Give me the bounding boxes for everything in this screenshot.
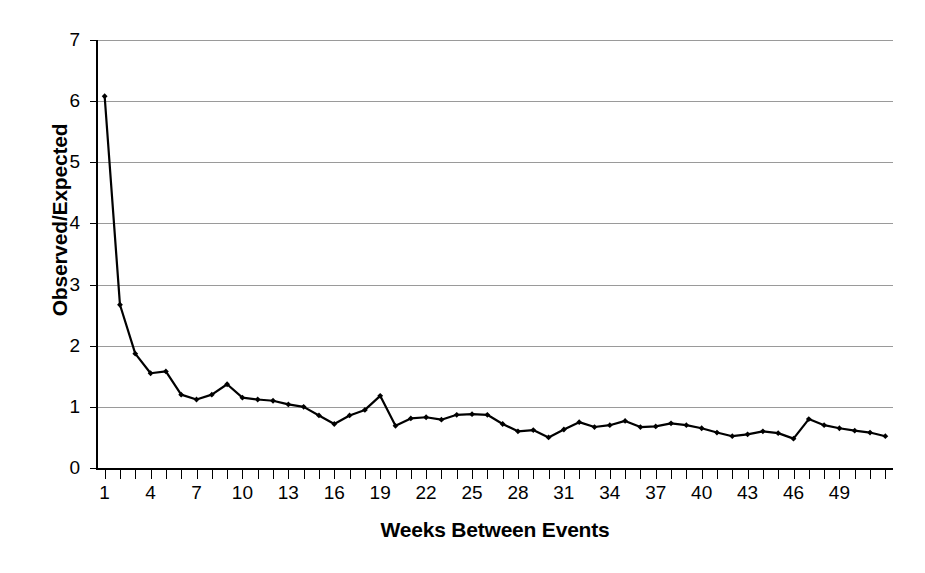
x-tick-mark	[824, 470, 825, 479]
x-tick-mark	[656, 470, 657, 479]
x-tick-mark	[472, 470, 473, 479]
x-tick-mark	[151, 470, 152, 479]
x-tick-mark	[702, 470, 703, 479]
x-tick-mark	[304, 470, 305, 479]
x-tick-mark	[350, 470, 351, 479]
x-tick-mark	[288, 470, 289, 479]
y-tick-label: 0	[40, 458, 80, 477]
x-tick-mark	[503, 470, 504, 479]
y-gridline	[97, 223, 893, 224]
x-tick-mark	[625, 470, 626, 479]
x-tick-label: 31	[544, 482, 584, 504]
x-tick-mark	[365, 470, 366, 479]
x-tick-label: 37	[636, 482, 676, 504]
x-tick-mark	[334, 470, 335, 479]
y-tick-label: 2	[40, 336, 80, 355]
x-tick-mark	[564, 470, 565, 479]
x-tick-mark	[181, 470, 182, 479]
x-tick-mark	[242, 470, 243, 479]
x-tick-mark	[135, 470, 136, 479]
x-tick-label: 49	[819, 482, 859, 504]
x-tick-mark	[778, 470, 779, 479]
x-tick-mark	[105, 470, 106, 479]
x-tick-mark	[549, 470, 550, 479]
y-gridline	[97, 162, 893, 163]
x-tick-mark	[732, 470, 733, 479]
y-tick-label: 6	[40, 91, 80, 110]
x-tick-mark	[273, 470, 274, 479]
y-tick-mark	[90, 468, 97, 469]
x-tick-mark	[518, 470, 519, 479]
x-tick-mark	[319, 470, 320, 479]
x-tick-label: 46	[774, 482, 814, 504]
x-tick-mark	[197, 470, 198, 479]
x-tick-mark	[855, 470, 856, 479]
y-tick-mark	[90, 407, 97, 408]
x-tick-mark	[487, 470, 488, 479]
x-tick-mark	[794, 470, 795, 479]
x-tick-label: 10	[222, 482, 262, 504]
x-tick-mark	[748, 470, 749, 479]
x-tick-label: 13	[268, 482, 308, 504]
x-tick-label: 40	[682, 482, 722, 504]
x-tick-mark	[640, 470, 641, 479]
x-tick-mark	[671, 470, 672, 479]
x-tick-mark	[227, 470, 228, 479]
x-tick-mark	[533, 470, 534, 479]
x-tick-label: 16	[314, 482, 354, 504]
plot-area	[97, 40, 893, 468]
x-tick-mark	[885, 470, 886, 479]
y-tick-label: 5	[40, 152, 80, 171]
x-tick-label: 34	[590, 482, 630, 504]
x-axis-title: Weeks Between Events	[97, 518, 893, 542]
y-gridline	[97, 40, 893, 41]
y-axis-line	[96, 40, 98, 470]
x-tick-label: 1	[85, 482, 125, 504]
x-tick-mark	[610, 470, 611, 479]
x-tick-label: 25	[452, 482, 492, 504]
x-tick-mark	[763, 470, 764, 479]
x-tick-mark	[426, 470, 427, 479]
x-tick-mark	[457, 470, 458, 479]
x-tick-mark	[380, 470, 381, 479]
x-tick-label: 4	[131, 482, 171, 504]
y-tick-label: 7	[40, 30, 80, 49]
y-gridline	[97, 407, 893, 408]
y-gridline	[97, 101, 893, 102]
x-tick-mark	[120, 470, 121, 479]
x-tick-label: 28	[498, 482, 538, 504]
y-tick-label: 3	[40, 275, 80, 294]
x-tick-mark	[809, 470, 810, 479]
y-tick-mark	[90, 285, 97, 286]
x-tick-label: 7	[177, 482, 217, 504]
x-tick-mark	[870, 470, 871, 479]
y-tick-mark	[90, 346, 97, 347]
x-tick-mark	[258, 470, 259, 479]
chart-figure: Observed/Expected Weeks Between Events 0…	[0, 0, 925, 573]
y-gridline	[97, 285, 893, 286]
x-tick-label: 43	[728, 482, 768, 504]
x-tick-mark	[411, 470, 412, 479]
y-gridline	[97, 346, 893, 347]
x-tick-mark	[166, 470, 167, 479]
x-tick-mark	[212, 470, 213, 479]
x-tick-mark	[396, 470, 397, 479]
x-tick-label: 22	[406, 482, 446, 504]
y-tick-mark	[90, 40, 97, 41]
x-tick-label: 19	[360, 482, 400, 504]
y-tick-label: 4	[40, 213, 80, 232]
x-tick-mark	[717, 470, 718, 479]
x-tick-mark	[686, 470, 687, 479]
y-tick-mark	[90, 101, 97, 102]
y-tick-mark	[90, 223, 97, 224]
x-tick-mark	[595, 470, 596, 479]
x-tick-mark	[579, 470, 580, 479]
x-tick-mark	[441, 470, 442, 479]
x-tick-mark	[839, 470, 840, 479]
y-tick-label: 1	[40, 397, 80, 416]
y-tick-mark	[90, 162, 97, 163]
x-axis-line	[97, 468, 893, 470]
